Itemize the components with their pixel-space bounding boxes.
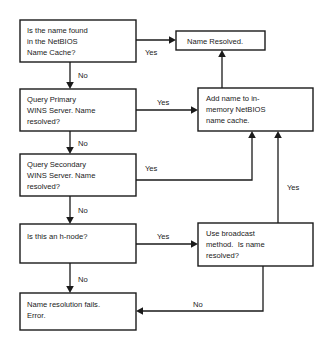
edge-line [136, 138, 252, 180]
node-box-h-node-check [20, 224, 136, 263]
node-text-line: name cache. [206, 116, 249, 125]
node-text-line: resolved? [27, 117, 60, 126]
node-name-resolved[interactable]: Name Resolved. [176, 31, 265, 50]
arrowhead-icon [66, 286, 74, 293]
node-text-line: Name resolution fails. [27, 300, 100, 309]
node-text-line: Is this an h-node? [27, 232, 87, 241]
edge-broadcast-no: No [136, 266, 263, 315]
node-text-line: Name Resolved. [187, 37, 243, 46]
arrowhead-icon [169, 36, 176, 44]
node-name-resolution-fails[interactable]: Name resolution fails. Error. [20, 293, 136, 330]
arrowhead-icon [66, 147, 74, 154]
arrowhead-icon [191, 106, 198, 114]
edge-cache-no: No [66, 62, 88, 89]
node-text-line: Error. [27, 311, 46, 320]
edge-label-broadcast-yes: Yes [287, 183, 300, 192]
node-h-node-check[interactable]: Is this an h-node? [20, 224, 136, 263]
edge-cache-yes: Yes [136, 36, 176, 57]
edge-primary-no: No [66, 131, 88, 154]
node-text-line: Query Secondary [27, 160, 86, 169]
edge-hnode-no: No [66, 263, 88, 293]
edge-primary-yes: Yes [136, 98, 198, 114]
node-query-primary-wins[interactable]: Query Primary WINS Server. Name resolved… [20, 89, 136, 131]
edge-label-primary-no: No [78, 139, 88, 148]
arrowhead-icon [66, 217, 74, 224]
edge-hnode-yes: Yes [136, 232, 198, 248]
node-text-line: Name Cache? [27, 48, 76, 57]
edge-cache-add-to-resolved [218, 50, 226, 88]
node-text-line: resolved? [27, 182, 60, 191]
edge-label-cache-yes: Yes [145, 48, 158, 57]
node-text-line: method. Is name [206, 240, 265, 249]
arrowhead-icon [136, 307, 143, 315]
node-text-line: Add name to in- [206, 94, 260, 103]
edge-label-secondary-yes: Yes [145, 164, 158, 173]
arrowhead-icon [218, 50, 226, 57]
node-text-line: in the NetBIOS [27, 37, 78, 46]
flowchart-diagram: Is the name found in the NetBIOS Name Ca… [0, 0, 336, 350]
node-add-name-to-cache[interactable]: Add name to in- memory NetBIOS name cach… [198, 88, 313, 131]
node-use-broadcast[interactable]: Use broadcast method. Is name resolved? [198, 223, 313, 266]
edge-label-primary-yes: Yes [157, 98, 170, 107]
arrowhead-icon [66, 82, 74, 89]
edge-secondary-no: No [66, 196, 88, 224]
node-text-line: memory NetBIOS [206, 105, 266, 114]
arrowhead-icon [274, 131, 282, 138]
node-text-line: Query Primary [27, 95, 76, 104]
arrowhead-icon [191, 240, 198, 248]
edge-label-cache-no: No [78, 71, 88, 80]
arrowhead-icon [248, 131, 256, 138]
flowchart-canvas: Is the name found in the NetBIOS Name Ca… [0, 0, 336, 350]
node-name-cache-check[interactable]: Is the name found in the NetBIOS Name Ca… [20, 20, 136, 62]
edge-line [143, 266, 263, 311]
node-text-line: WINS Server. Name [27, 171, 95, 180]
node-text-line: resolved? [206, 251, 239, 260]
edge-label-hnode-no: No [78, 275, 88, 284]
node-text-line: WINS Server. Name [27, 106, 95, 115]
node-text-line: Use broadcast [206, 229, 256, 238]
node-text-line: Is the name found [27, 26, 88, 35]
edge-secondary-yes: Yes [136, 131, 256, 180]
edge-label-broadcast-no: No [193, 300, 203, 309]
edge-label-hnode-yes: Yes [157, 232, 170, 241]
edge-broadcast-yes: Yes [274, 131, 299, 223]
edge-label-secondary-no: No [78, 206, 88, 215]
node-query-secondary-wins[interactable]: Query Secondary WINS Server. Name resolv… [20, 154, 136, 196]
